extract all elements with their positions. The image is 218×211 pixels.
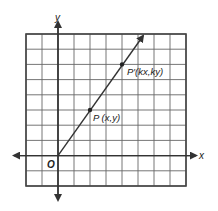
origin-label: O [47,159,55,170]
coordinate-plane: y x O P (x,y) P′(kx,ky) [0,0,218,211]
point-p-prime-label: P′(kx,ky) [127,66,163,77]
point-p-prime [120,62,124,66]
point-p [88,108,92,112]
point-p-label: P (x,y) [93,112,120,123]
ray-line [58,36,143,156]
y-axis-label: y [54,12,61,23]
x-axis-label: x [198,150,205,161]
